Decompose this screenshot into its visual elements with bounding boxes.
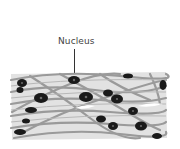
nucleus: [123, 74, 133, 79]
nucleus: [160, 80, 167, 90]
nucleus: [14, 129, 26, 135]
nucleus: [17, 87, 24, 93]
nucleus: [25, 107, 37, 113]
nucleus: [103, 90, 113, 97]
nucleus: [22, 119, 30, 124]
tissue-illustration: [0, 0, 180, 149]
nucleus: [96, 116, 106, 123]
nucleus: [152, 133, 162, 139]
